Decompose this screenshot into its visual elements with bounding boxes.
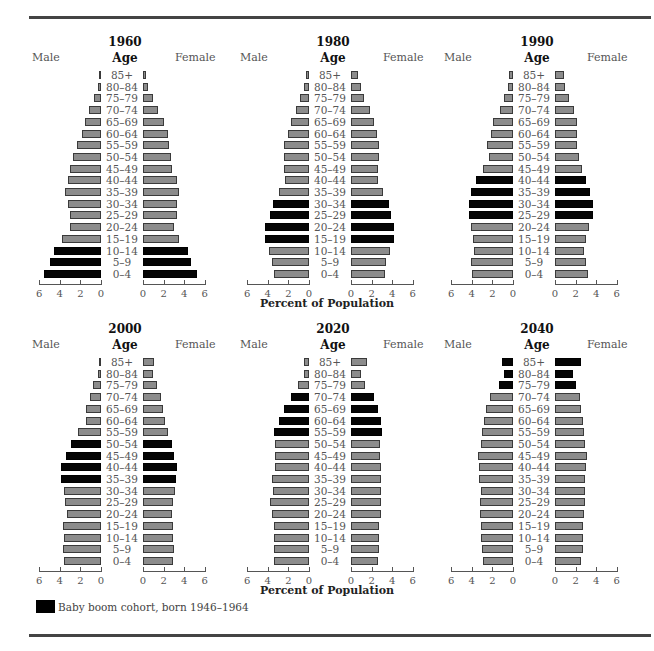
female-bar: [143, 235, 179, 243]
male-bar: [68, 200, 101, 208]
age-row: 30–34: [228, 487, 438, 496]
female-bar: [351, 475, 381, 483]
axis-tick: [164, 567, 165, 572]
age-row: 65–69: [20, 118, 230, 127]
axis-tick: [288, 280, 289, 285]
age-row: 35–39: [432, 188, 642, 197]
axis-tick: [617, 280, 618, 285]
age-row: 35–39: [228, 188, 438, 197]
female-label: Female: [383, 338, 424, 351]
male-label: Male: [444, 51, 472, 64]
axis-tick: [472, 567, 473, 572]
axis-tick: [80, 280, 81, 285]
male-tick-label: 2: [485, 575, 499, 586]
female-bar: [143, 211, 177, 219]
age-row: 10–14: [432, 247, 642, 256]
male-bar: [480, 510, 513, 518]
age-row: 10–14: [228, 534, 438, 543]
age-row: 65–69: [228, 118, 438, 127]
female-bar: [143, 165, 172, 173]
age-row: 60–64: [432, 130, 642, 139]
male-bar: [70, 165, 101, 173]
female-bar: [555, 165, 582, 173]
female-bar: [351, 235, 394, 243]
male-bar: [482, 428, 513, 436]
axis-tick: [80, 567, 81, 572]
female-bar: [143, 510, 172, 518]
age-row: 0–4: [228, 270, 438, 279]
female-bar: [143, 498, 173, 506]
age-row: 65–69: [432, 405, 642, 414]
axis-tick: [39, 280, 40, 285]
age-row: 70–74: [20, 106, 230, 115]
female-bar: [555, 545, 583, 553]
male-bar: [68, 176, 101, 184]
age-row: 50–54: [228, 153, 438, 162]
age-row: 30–34: [20, 487, 230, 496]
male-bar: [483, 557, 513, 565]
male-bar: [479, 463, 513, 471]
female-x-axis: [143, 571, 205, 572]
x-axis-title-top: Percent of Population: [227, 297, 427, 310]
pyramid-year-title: 2040: [432, 322, 642, 336]
legend: Baby boom cohort, born 1946–1964: [36, 600, 249, 613]
axis-tick: [101, 567, 102, 572]
female-bar: [555, 235, 586, 243]
axis-tick: [451, 280, 452, 285]
axis-tick: [596, 280, 597, 285]
female-bar: [143, 393, 161, 401]
male-tick-label: 6: [444, 288, 458, 299]
male-bar: [482, 545, 513, 553]
female-bar: [351, 94, 364, 102]
age-row: 70–74: [432, 393, 642, 402]
male-bar: [90, 393, 101, 401]
female-bar: [351, 405, 378, 413]
female-bar: [555, 130, 577, 138]
age-row: 30–34: [432, 487, 642, 496]
female-bar: [555, 370, 573, 378]
male-bar: [487, 141, 513, 149]
male-x-axis: [39, 284, 101, 285]
female-bar: [143, 463, 177, 471]
female-x-axis: [143, 284, 205, 285]
female-bar: [351, 258, 386, 266]
age-row: 60–64: [228, 417, 438, 426]
female-bar: [555, 106, 574, 114]
female-bar: [143, 141, 169, 149]
female-tick-label: 4: [589, 288, 603, 299]
male-tick-label: 4: [465, 288, 479, 299]
female-bar: [351, 130, 377, 138]
female-bar: [555, 188, 590, 196]
male-bar: [300, 94, 309, 102]
female-bar: [555, 247, 584, 255]
axis-tick: [576, 280, 577, 285]
female-bar: [555, 522, 583, 530]
female-label: Female: [587, 51, 628, 64]
axis-tick: [513, 280, 514, 285]
axis-tick: [372, 567, 373, 572]
male-bar: [265, 235, 309, 243]
axis-tick: [492, 567, 493, 572]
female-label: Female: [175, 51, 216, 64]
female-bar: [555, 94, 569, 102]
age-row: 45–49: [432, 165, 642, 174]
male-bar: [279, 188, 309, 196]
male-tick-label: 0: [506, 575, 520, 586]
age-group-label: 0–4: [309, 267, 351, 281]
male-bar: [502, 358, 513, 366]
age-row: 40–44: [432, 176, 642, 185]
pyramid-2000: 2000AgeMaleFemale85+80–8475–7970–7465–69…: [20, 322, 230, 582]
female-bar: [555, 498, 585, 506]
female-bar: [143, 405, 163, 413]
male-label: Male: [240, 51, 268, 64]
male-bar: [472, 270, 513, 278]
male-bar: [64, 534, 101, 542]
pyramid-year-title: 1990: [432, 35, 642, 49]
axis-tick: [413, 567, 414, 572]
male-bar: [471, 188, 513, 196]
age-row: 40–44: [20, 463, 230, 472]
female-bar: [555, 405, 581, 413]
male-label: Male: [32, 51, 60, 64]
female-bar: [555, 223, 589, 231]
male-bar: [481, 534, 513, 542]
